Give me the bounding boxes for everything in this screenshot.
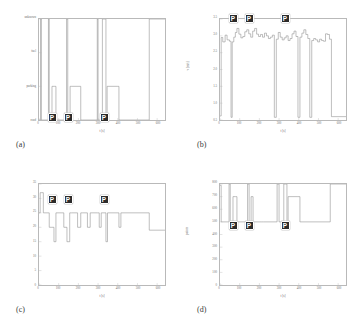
panel-b-xtick-5: 500 (317, 122, 322, 125)
panel-d-caption: (d) (197, 305, 206, 314)
panel-d-xtick-0: 0 (218, 287, 220, 290)
panel-a-xtick-0: 0 (37, 122, 39, 125)
panel-c-xtick-3: 300 (96, 287, 101, 290)
parking-marker-b-2: P (281, 14, 290, 23)
parking-marker-d-0: P (229, 221, 238, 230)
panel-c-xtick-0: 0 (37, 287, 39, 290)
panel-b-ytick-3: 2.0 (213, 68, 217, 71)
panel-a-y-tick-labels: roadparkingfuelunknown (0, 18, 36, 121)
parking-marker-d-2: P (281, 221, 290, 230)
panel-c-xtick-1: 100 (56, 287, 61, 290)
panel-d-ytick-6: 600 (212, 207, 217, 210)
panel-d-xtick-1: 100 (237, 287, 242, 290)
panel-c-ytick-1: 5 (34, 270, 36, 273)
panel-b-xtick-1: 100 (237, 122, 242, 125)
panel-c-ytick-0: 0 (34, 284, 36, 287)
panel-a-caption: (a) (16, 140, 25, 149)
panel-d-yaxis-title: points (185, 227, 189, 235)
parking-marker-a-2: P (100, 113, 109, 122)
panel-d-ytick-3: 300 (212, 246, 217, 249)
panel-d-ytick-1: 100 (212, 271, 217, 274)
panel-c-ytick-2: 10 (33, 255, 36, 258)
panel-b-caption: (b) (197, 140, 206, 149)
parking-marker-c-2: P (100, 195, 109, 204)
panel-a-ytick-0: road (31, 119, 37, 122)
panel-b-xtick-4: 400 (297, 122, 302, 125)
panel-a-ytick-1: parking (27, 85, 36, 88)
parking-marker-a-0: P (48, 113, 57, 122)
figure-container: roadparkingfuelunknown 01002003004005006… (0, 0, 362, 331)
panel-c-xtick-6: 600 (156, 287, 161, 290)
panel-c-xtick-2: 200 (76, 287, 81, 290)
panel-c-caption: (c) (16, 305, 25, 314)
panel-b-ytick-2: 1.5 (213, 85, 217, 88)
panel-a-trace (39, 19, 165, 120)
panel-d-xtick-2: 200 (257, 287, 262, 290)
panel-d-trace (220, 184, 346, 285)
panel-d-ytick-8: 800 (212, 181, 217, 184)
panel-b-ytick-5: 3.0 (213, 33, 217, 36)
parking-marker-c-1: P (64, 195, 73, 204)
panel-a-ytick-2: fuel (31, 51, 36, 54)
panel-a-xtick-4: 400 (116, 122, 121, 125)
parking-marker-d-1: P (245, 221, 254, 230)
panel-d-xtick-6: 600 (337, 287, 342, 290)
panel-d-ytick-7: 700 (212, 194, 217, 197)
panel-b-trace (220, 19, 346, 120)
panel-c-xtick-5: 500 (136, 287, 141, 290)
panel-b-ytick-1: 1.0 (213, 102, 217, 105)
panel-b-ytick-6: 3.5 (213, 16, 217, 19)
panel-c-y-tick-labels: 05101520253035 (0, 183, 36, 286)
panel-d-ytick-0: 0 (215, 284, 217, 287)
panel-c-ytick-7: 35 (33, 181, 36, 184)
panel-b-yaxis-title: v [m/s] (186, 61, 190, 70)
panel-c-ytick-4: 20 (33, 225, 36, 228)
panel-b-ytick-0: 0.5 (213, 119, 217, 122)
panel-a-ytick-3: unknown (24, 16, 36, 19)
panel-c-ytick-3: 15 (33, 240, 36, 243)
panel-d-ytick-5: 500 (212, 220, 217, 223)
panel-d-xtick-4: 400 (297, 287, 302, 290)
panel-a-xaxis-title: t [s] (38, 129, 166, 133)
panel-d-ytick-4: 400 (212, 233, 217, 236)
panel-c-ytick-5: 25 (33, 211, 36, 214)
panel-d-xtick-5: 500 (317, 287, 322, 290)
panel-b-ytick-4: 2.5 (213, 51, 217, 54)
panel-b-xtick-2: 200 (257, 122, 262, 125)
panel-d-ytick-2: 200 (212, 259, 217, 262)
panel-a-xtick-3: 300 (96, 122, 101, 125)
parking-marker-b-1: P (245, 14, 254, 23)
panel-b-plot-area (219, 18, 347, 121)
panel-d-xaxis-title: t [s] (219, 294, 347, 298)
panel-d-plot-area (219, 183, 347, 286)
panel-b-xtick-0: 0 (218, 122, 220, 125)
panel-c-xaxis-title: t [s] (38, 294, 166, 298)
panel-b: 0.51.01.52.02.53.03.5 v [m/s] 0100200300… (181, 0, 362, 165)
panel-b-xtick-6: 600 (337, 122, 342, 125)
panel-a-xtick-6: 600 (156, 122, 161, 125)
panel-c-xtick-4: 400 (116, 287, 121, 290)
panel-a: roadparkingfuelunknown 01002003004005006… (0, 0, 181, 165)
panel-c-ytick-6: 30 (33, 196, 36, 199)
parking-marker-a-1: P (64, 113, 73, 122)
panel-a-plot-area (38, 18, 166, 121)
panel-b-xaxis-title: t [s] (219, 129, 347, 133)
panel-d: 0100200300400500600700800 points 0100200… (181, 165, 362, 330)
panel-b-xtick-3: 300 (277, 122, 282, 125)
panel-a-xtick-5: 500 (136, 122, 141, 125)
parking-marker-b-0: P (229, 14, 238, 23)
parking-marker-c-0: P (48, 195, 57, 204)
panel-a-xtick-2: 200 (76, 122, 81, 125)
panel-a-xtick-1: 100 (56, 122, 61, 125)
panel-c: 05101520253035 0100200300400500600 t [s]… (0, 165, 181, 330)
panel-d-xtick-3: 300 (277, 287, 282, 290)
